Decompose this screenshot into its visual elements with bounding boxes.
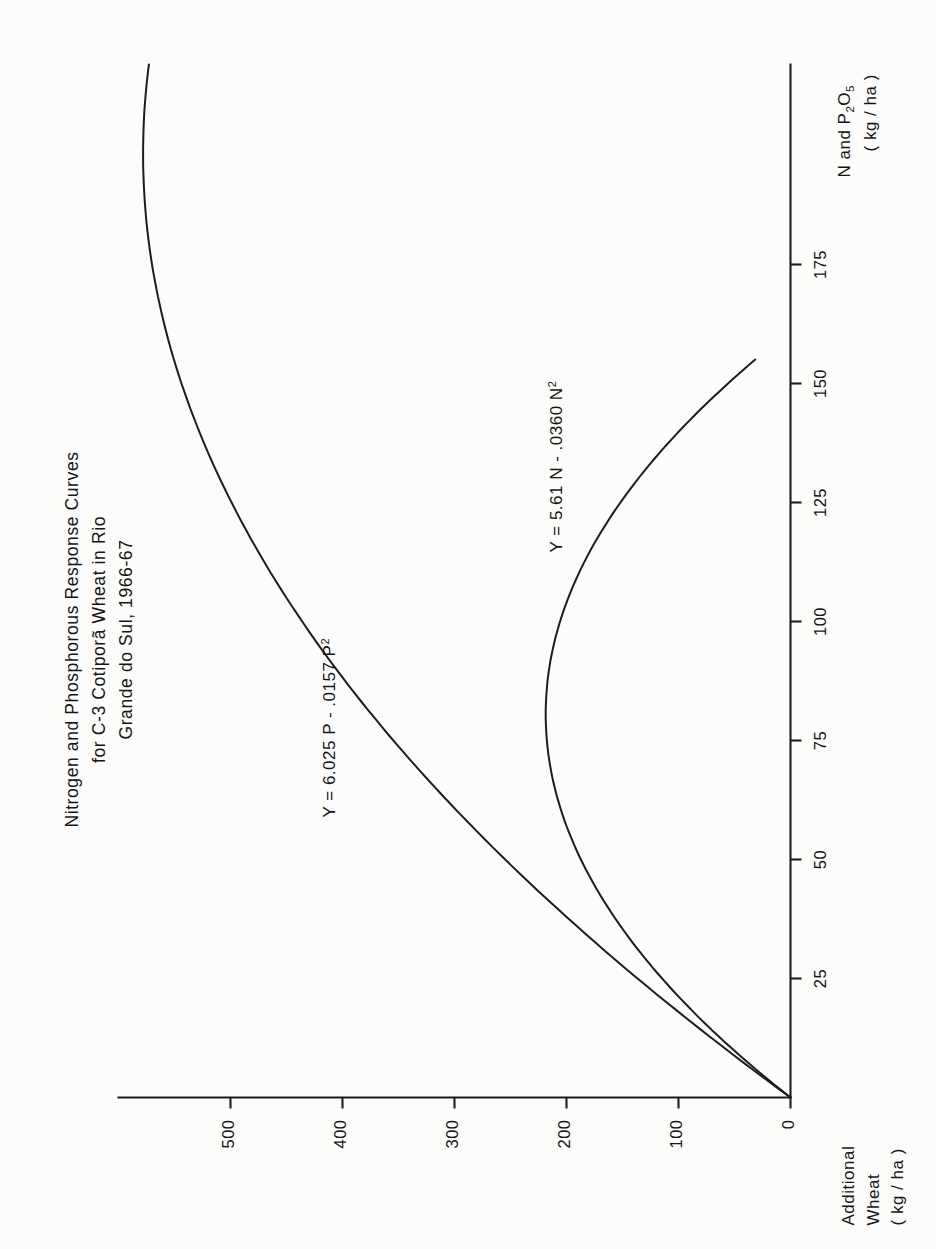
- scanned-page: Nitrogen and Phosphorous Response Curves…: [0, 0, 936, 1249]
- phosphorus-equation-exponent: 2: [318, 637, 330, 644]
- rotated-figure-wrapper: Nitrogen and Phosphorous Response Curves…: [0, 0, 936, 1249]
- phosphorus-response-line: [143, 64, 790, 1097]
- y-tick-label-400: 400: [330, 1119, 349, 1189]
- x-axis-label-o: O: [834, 91, 853, 105]
- y-axis-label-line-1: Additional: [836, 1145, 861, 1225]
- x-tick-label-175: 175: [810, 249, 829, 278]
- x-axis-label-sub-5: 5: [843, 85, 855, 92]
- y-axis-label-line-3: ( kg / ha ): [885, 1145, 910, 1225]
- y-axis-label-line-2: Wheat: [861, 1145, 886, 1225]
- phosphorus-equation-text: Y = 6.025 P - .0157 P: [320, 644, 339, 817]
- x-axis-label-n-and-p: N and P: [834, 112, 853, 177]
- y-axis-label: Additional Wheat ( kg / ha ): [836, 1145, 910, 1225]
- nitrogen-equation-exponent: 2: [545, 380, 557, 387]
- nitrogen-equation-label: Y = 5.61 N - .0360 N2: [545, 380, 567, 552]
- y-tick-label-500: 500: [218, 1119, 237, 1189]
- x-tick-label-50: 50: [810, 849, 829, 868]
- x-tick-label-150: 150: [810, 368, 829, 397]
- y-tick-marks: [230, 1097, 790, 1108]
- y-tick-label-300: 300: [442, 1119, 461, 1189]
- y-tick-label-100: 100: [666, 1119, 685, 1189]
- x-tick-label-75: 75: [810, 730, 829, 749]
- x-tick-label-125: 125: [810, 487, 829, 516]
- nitrogen-response-line: [545, 359, 790, 1097]
- x-tick-label-25: 25: [810, 968, 829, 987]
- y-tick-label-200: 200: [554, 1119, 573, 1189]
- x-tick-label-100: 100: [810, 606, 829, 635]
- x-axis-label-line-1: N and P2O5: [832, 74, 858, 177]
- x-axis-label-line-2: ( kg / ha ): [858, 74, 883, 177]
- x-tick-marks: [790, 264, 801, 978]
- x-axis-label: N and P2O5 ( kg / ha ): [832, 74, 883, 177]
- chart-figure: Nitrogen and Phosphorous Response Curves…: [0, 0, 936, 1249]
- x-axis-label-sub-2: 2: [843, 105, 855, 112]
- y-tick-label-0: 0: [778, 1119, 797, 1189]
- plot-svg: [0, 0, 936, 1249]
- phosphorus-equation-label: Y = 6.025 P - .0157 P2: [318, 637, 340, 817]
- nitrogen-equation-text: Y = 5.61 N - .0360 N: [547, 387, 566, 552]
